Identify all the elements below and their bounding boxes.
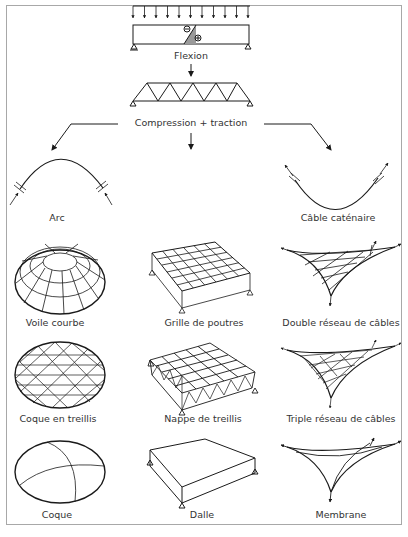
space-truss-icon (148, 343, 258, 415)
triple-cable-net-icon (281, 340, 401, 408)
slab-icon (147, 439, 258, 508)
double-cable-net-icon (281, 241, 401, 306)
label-triple-reseau: Triple réseau de câbles (286, 413, 395, 425)
lattice-shell-icon (15, 342, 105, 408)
dome-shell-icon (15, 244, 105, 314)
label-compression-traction: Compression + traction (135, 117, 248, 129)
arrow-left-branch-icon (52, 124, 118, 150)
label-coque: Coque (42, 509, 72, 521)
label-voile-courbe: Voile courbe (26, 317, 85, 329)
label-arc: Arc (49, 212, 64, 224)
truss-icon (130, 83, 253, 106)
label-grille-de-poutres: Grille de poutres (164, 317, 243, 329)
beam-flexion-icon (130, 6, 251, 50)
label-nappe-de-treillis: Nappe de treillis (164, 413, 242, 425)
arrow-right-branch-icon (264, 124, 331, 150)
label-double-reseau: Double réseau de câbles (282, 317, 399, 329)
label-dalle: Dalle (190, 509, 214, 521)
label-membrane: Membrane (316, 509, 367, 521)
label-coque-en-treillis: Coque en treillis (19, 413, 96, 425)
label-flexion: Flexion (174, 50, 208, 62)
shell-icon (15, 441, 105, 503)
structural-systems-diagram (0, 0, 408, 537)
label-catenary-cable: Câble caténaire (301, 212, 376, 224)
arc-icon (10, 159, 112, 205)
membrane-icon (281, 438, 401, 502)
catenary-cable-icon (285, 163, 388, 210)
beam-grid-icon (149, 242, 253, 313)
